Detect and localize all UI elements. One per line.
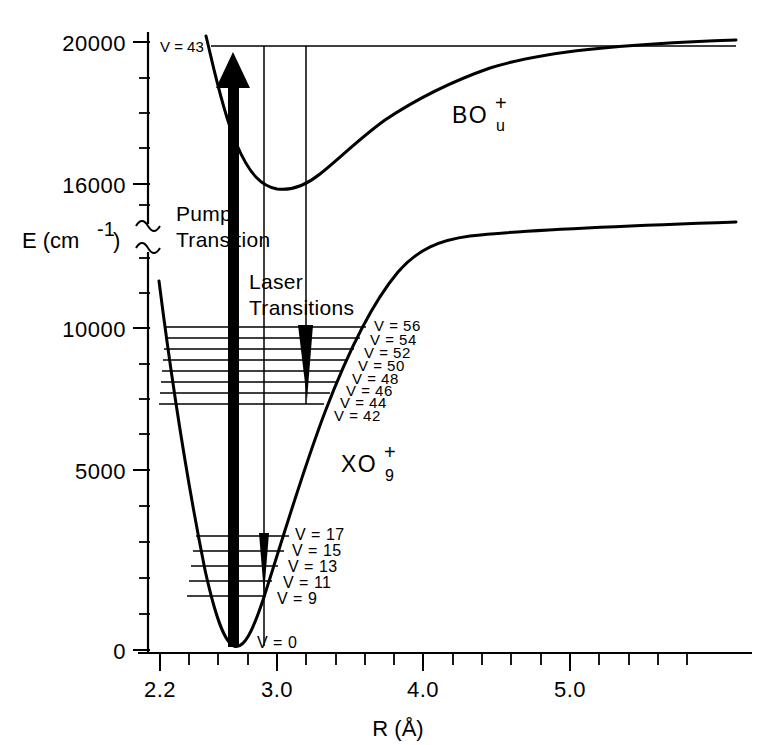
bo-state-label-superscript: + — [495, 92, 507, 114]
y-tick-label-5000: 5000 — [75, 459, 126, 484]
x-tick-label-5.0: 5.0 — [554, 677, 586, 702]
x-tick-label-2.2: 2.2 — [144, 677, 176, 702]
pec-figure-svg: 20000 16000 10000 5000 0 E (cm -1 ) — [0, 0, 759, 745]
upper-state-group: V = 43 BO + u — [160, 36, 736, 189]
annotation-pump-transition: Pump Transition — [176, 202, 270, 251]
vib-level-label-13: V = 13 — [288, 558, 338, 575]
laser-annotation-line1: Laser — [249, 270, 303, 293]
vib-level-label-0: V = 0 — [257, 634, 297, 651]
xo-state-label-main: XO — [341, 451, 377, 477]
bo-state-label: BO + u — [452, 92, 507, 134]
vib-level-label-9: V = 9 — [277, 590, 317, 607]
x-axis-title-unit: Å — [402, 716, 417, 741]
xo-state-label: XO + 9 — [341, 441, 396, 484]
xo-state-label-subscript: 9 — [385, 467, 394, 484]
bo-state-label-main: BO — [452, 102, 488, 128]
pump-annotation-line2: Transition — [176, 228, 270, 251]
pump-annotation-line1: Pump — [176, 202, 232, 225]
xo-state-label-superscript: + — [384, 441, 396, 463]
y-tick-label-0: 0 — [113, 639, 126, 664]
vib-level-label-15: V = 15 — [292, 542, 342, 559]
v43-label: V = 43 — [160, 38, 204, 55]
y-tick-label-10000: 10000 — [62, 317, 126, 342]
x-axis-title: R (Å) — [372, 716, 423, 741]
x-axis-title-main: R ( — [372, 716, 402, 741]
y-axis-title-close: ) — [113, 228, 120, 253]
y-axis-title-main: E (cm — [22, 228, 79, 253]
vib-level-label-17: V = 17 — [295, 526, 345, 543]
x-axis-title-full: R (Å) — [372, 716, 423, 741]
x-axis-title-close: ) — [416, 716, 423, 741]
y-tick-label-16000: 16000 — [62, 173, 126, 198]
laser-annotation-line2: Transitions — [249, 296, 354, 319]
pump-arrow-head — [216, 52, 250, 88]
vib-level-label-42: V = 42 — [334, 407, 381, 424]
vib-ground-level-group: V = 0 — [257, 634, 297, 651]
bo-state-label-subscript: u — [496, 117, 505, 134]
potential-energy-diagram: 20000 16000 10000 5000 0 E (cm -1 ) — [0, 0, 759, 745]
vib-levels-upper-group: V = 56 V = 54 V = 52 V = 50 V = 48 V = 4… — [159, 317, 421, 424]
y-axis-group: 20000 16000 10000 5000 0 E (cm -1 ) — [22, 31, 160, 664]
x-tick-label-4.0: 4.0 — [407, 677, 439, 702]
annotation-laser-transitions: Laser Transitions — [249, 270, 354, 319]
vib-level-label-11: V = 11 — [283, 574, 332, 591]
x-tick-label-3.0: 3.0 — [261, 677, 293, 702]
y-axis-title: E (cm -1 ) — [22, 218, 120, 253]
x-axis-group: 2.2 3.0 4.0 5.0 R (Å) — [138, 653, 752, 741]
xo-state-potential-curve — [159, 222, 736, 647]
y-tick-label-20000: 20000 — [62, 31, 126, 56]
axis-break-squiggle-bottom — [136, 243, 160, 253]
lower-state-group: XO + 9 — [159, 222, 736, 647]
pump-arrow-shaft — [228, 78, 239, 647]
